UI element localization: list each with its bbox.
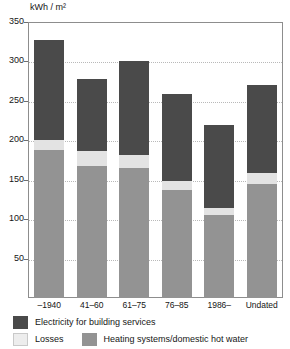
y-axis-title: kWh / m² [30, 2, 66, 13]
bar-segment-losses [34, 140, 64, 150]
x-tick-label: 41–60 [71, 300, 114, 310]
legend-label: Electricity for building services [35, 317, 156, 328]
x-tick-label: –1940 [28, 300, 71, 310]
legend-label: Losses [35, 334, 64, 345]
legend-label: Heating systems/domestic hot water [104, 334, 249, 345]
x-tick-label: 1986– [198, 300, 241, 310]
bar-segment-losses [204, 208, 234, 215]
bar-segment-electricity [204, 125, 234, 209]
bar-segment-losses [119, 155, 149, 168]
bar-segment-electricity [77, 79, 107, 152]
bar-segment-heating [204, 215, 234, 298]
bar-segment-electricity [162, 94, 192, 182]
bar-segment-heating [162, 190, 192, 298]
bar-column[interactable] [77, 79, 107, 298]
bar-column[interactable] [204, 125, 234, 298]
y-tick-label: 200 [2, 135, 24, 144]
legend: Electricity for building services Losses… [13, 314, 290, 348]
legend-row-1: Electricity for building services [13, 314, 290, 331]
bar-segment-electricity [119, 61, 149, 155]
bar-column[interactable] [119, 61, 149, 298]
legend-item[interactable]: Losses [13, 333, 64, 346]
legend-swatch [13, 333, 28, 346]
x-tick-label: 76–85 [156, 300, 199, 310]
y-tick-label: 250 [2, 96, 24, 105]
x-tick-label: Undated [241, 300, 284, 310]
bar-segment-losses [247, 173, 277, 184]
bar-segment-losses [162, 181, 192, 190]
x-tick-label: 61–75 [113, 300, 156, 310]
y-tick-label: 300 [2, 56, 24, 65]
bar-column[interactable] [162, 94, 192, 298]
bar-segment-heating [247, 184, 277, 298]
bar-column[interactable] [34, 40, 64, 298]
bar-segment-losses [77, 151, 107, 165]
bar-chart: kWh / m² 50100150200250300350 –194041–60… [0, 0, 290, 349]
y-tick-label: 50 [2, 254, 24, 263]
bar-segment-heating [77, 166, 107, 298]
y-tick-label: 100 [2, 214, 24, 223]
y-tick-label: 150 [2, 175, 24, 184]
legend-row-2: LossesHeating systems/domestic hot water [13, 331, 290, 348]
bars-layer [28, 22, 283, 298]
legend-swatch [13, 316, 28, 329]
bar-segment-electricity [34, 40, 64, 139]
bar-segment-heating [119, 168, 149, 298]
bar-column[interactable] [247, 85, 277, 298]
legend-item[interactable]: Heating systems/domestic hot water [82, 333, 249, 346]
bar-segment-electricity [247, 85, 277, 173]
y-tick-label: 350 [2, 17, 24, 26]
legend-swatch [82, 333, 97, 346]
legend-item[interactable]: Electricity for building services [13, 316, 156, 329]
bar-segment-heating [34, 150, 64, 298]
